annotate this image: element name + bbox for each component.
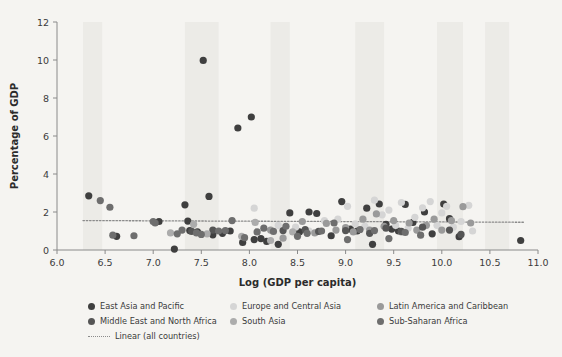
background-band	[271, 22, 290, 250]
data-point	[328, 232, 335, 239]
x-axis-title: Log (GDP per capita)	[239, 277, 357, 288]
data-point	[332, 226, 339, 233]
data-point	[251, 236, 258, 243]
y-tick-label: 4	[43, 169, 49, 180]
y-axis-title: Percentage of GDP	[9, 83, 20, 189]
data-point	[390, 217, 397, 224]
legend-item-linear-all-countries[interactable]: Linear (all countries)	[88, 332, 230, 340]
data-point	[248, 113, 255, 120]
data-point	[270, 228, 277, 235]
data-point	[457, 231, 464, 238]
data-point	[352, 220, 359, 227]
legend-item-sub-saharan-africa[interactable]: Sub-Saharan Africa	[377, 317, 527, 325]
data-point	[260, 225, 267, 232]
data-point	[448, 217, 455, 224]
data-point	[446, 226, 453, 233]
legend-label: South Asia	[242, 317, 286, 325]
data-point	[342, 227, 349, 234]
legend-dot-marker	[377, 318, 384, 325]
data-point	[429, 230, 436, 237]
legend-row: Middle East and North AfricaSouth AsiaSu…	[88, 314, 538, 329]
data-point	[373, 210, 380, 217]
data-point	[178, 226, 185, 233]
legend-label: East Asia and Pacific	[100, 302, 184, 310]
legend-item-middle-east-and-north-africa[interactable]: Middle East and North Africa	[88, 317, 230, 325]
data-point	[106, 204, 113, 211]
data-point	[279, 235, 286, 242]
x-tick-label: 7.0	[146, 257, 161, 268]
data-point	[228, 217, 235, 224]
data-point	[438, 209, 445, 216]
data-point	[356, 226, 363, 233]
x-tick-label: 9.0	[338, 257, 353, 268]
data-point	[109, 232, 116, 239]
chart-container: 0246810126.06.57.07.58.08.59.09.510.010.…	[0, 0, 562, 357]
data-point	[344, 203, 351, 210]
data-point	[517, 237, 524, 244]
data-point	[411, 214, 418, 221]
data-point	[330, 219, 337, 226]
data-point	[459, 203, 466, 210]
data-point	[338, 198, 345, 205]
y-tick-label: 0	[43, 245, 49, 256]
data-point	[469, 227, 476, 234]
data-point	[171, 245, 178, 252]
legend-label: Europe and Central Asia	[242, 302, 341, 310]
legend-dot-marker	[230, 318, 237, 325]
legend-item-south-asia[interactable]: South Asia	[230, 317, 377, 325]
data-point	[344, 236, 351, 243]
data-point	[252, 219, 259, 226]
legend-dot-marker	[88, 303, 95, 310]
legend-dash-marker	[88, 336, 110, 337]
x-tick-label: 8.0	[242, 257, 257, 268]
data-point	[431, 216, 438, 223]
data-point	[282, 223, 289, 230]
legend-dot-marker	[230, 303, 237, 310]
data-point	[152, 219, 159, 226]
data-point	[304, 230, 311, 237]
y-tick-label: 2	[43, 207, 49, 218]
y-tick-label: 10	[37, 55, 49, 66]
y-tick-label: 6	[43, 131, 49, 142]
data-point	[215, 227, 222, 234]
x-tick-label: 6.5	[98, 257, 113, 268]
y-tick-label: 12	[37, 17, 49, 28]
data-point	[190, 221, 197, 228]
legend-row: East Asia and PacificEurope and Central …	[88, 299, 538, 314]
data-point	[198, 231, 205, 238]
data-point	[371, 227, 378, 234]
data-point	[402, 229, 409, 236]
data-point	[467, 219, 474, 226]
data-point	[419, 204, 426, 211]
data-point	[417, 232, 424, 239]
legend-item-east-asia-and-pacific[interactable]: East Asia and Pacific	[88, 302, 230, 310]
data-point	[318, 227, 325, 234]
data-point	[363, 205, 370, 212]
data-point	[385, 207, 392, 214]
legend-item-latin-america-and-caribbean[interactable]: Latin America and Caribbean	[377, 302, 527, 310]
x-tick-label: 7.5	[194, 257, 209, 268]
data-point	[267, 237, 274, 244]
data-point	[205, 193, 212, 200]
legend-row: Linear (all countries)	[88, 329, 538, 344]
data-point	[286, 209, 293, 216]
data-point	[350, 228, 357, 235]
data-point	[419, 224, 426, 231]
data-point	[275, 241, 282, 248]
data-point	[323, 220, 330, 227]
legend-dot-marker	[88, 318, 95, 325]
data-point	[222, 227, 229, 234]
data-point	[275, 222, 282, 229]
data-point	[85, 192, 92, 199]
data-point	[241, 234, 248, 241]
data-point	[313, 210, 320, 217]
background-band	[185, 22, 219, 250]
legend-item-europe-and-central-asia[interactable]: Europe and Central Asia	[230, 302, 377, 310]
data-point	[181, 201, 188, 208]
legend-label: Linear (all countries)	[115, 332, 200, 340]
data-point	[371, 197, 378, 204]
x-tick-label: 11.0	[527, 257, 548, 268]
data-point	[369, 241, 376, 248]
x-tick-label: 10.5	[479, 257, 500, 268]
data-point	[443, 203, 450, 210]
